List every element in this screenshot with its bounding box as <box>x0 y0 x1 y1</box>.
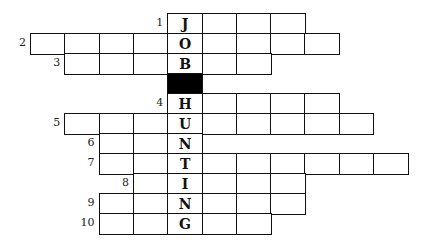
answer-cell[interactable] <box>236 33 272 55</box>
clue-number: 7 <box>75 156 95 169</box>
answer-cell[interactable] <box>64 113 100 135</box>
answer-cell[interactable] <box>99 153 135 175</box>
answer-cell[interactable] <box>133 213 169 235</box>
answer-cell[interactable] <box>236 193 272 215</box>
answer-cell[interactable] <box>133 133 169 155</box>
key-letter-cell[interactable]: J <box>167 13 203 35</box>
answer-cell[interactable] <box>270 153 306 175</box>
answer-cell[interactable] <box>133 33 169 55</box>
key-letter-cell[interactable]: U <box>167 113 203 135</box>
answer-cell[interactable] <box>236 213 272 235</box>
key-letter-cell[interactable]: I <box>167 173 203 195</box>
clue-number: 3 <box>40 56 60 69</box>
answer-cell[interactable] <box>304 33 340 55</box>
answer-cell[interactable] <box>236 13 272 35</box>
answer-cell[interactable] <box>202 113 238 135</box>
answer-cell[interactable] <box>270 13 306 35</box>
answer-cell[interactable] <box>30 33 66 55</box>
answer-cell[interactable] <box>202 53 238 75</box>
answer-cell[interactable] <box>304 153 340 175</box>
answer-cell[interactable] <box>236 173 272 195</box>
answer-cell[interactable] <box>270 93 306 115</box>
key-letter-cell[interactable]: G <box>167 213 203 235</box>
answer-cell[interactable] <box>133 153 169 175</box>
answer-cell[interactable] <box>202 213 238 235</box>
answer-cell[interactable] <box>236 113 272 135</box>
key-letter-cell[interactable]: T <box>167 153 203 175</box>
clue-number: 1 <box>143 16 163 29</box>
answer-cell[interactable] <box>236 153 272 175</box>
answer-cell[interactable] <box>202 33 238 55</box>
answer-cell[interactable] <box>202 13 238 35</box>
answer-cell[interactable] <box>99 113 135 135</box>
answer-cell[interactable] <box>236 93 272 115</box>
answer-cell[interactable] <box>270 33 306 55</box>
answer-cell[interactable] <box>339 153 375 175</box>
answer-cell[interactable] <box>99 193 135 215</box>
clue-number: 9 <box>75 196 95 209</box>
key-letter-cell[interactable]: H <box>167 93 203 115</box>
answer-cell[interactable] <box>270 113 306 135</box>
answer-cell[interactable] <box>304 93 340 115</box>
answer-cell[interactable] <box>202 153 238 175</box>
key-letter-cell[interactable]: B <box>167 53 203 75</box>
answer-cell[interactable] <box>373 153 409 175</box>
clue-number: 8 <box>109 176 129 189</box>
answer-cell[interactable] <box>270 193 306 215</box>
answer-cell[interactable] <box>99 213 135 235</box>
key-letter-cell[interactable]: O <box>167 33 203 55</box>
answer-cell[interactable] <box>64 53 100 75</box>
answer-cell[interactable] <box>133 53 169 75</box>
key-letter-cell[interactable]: N <box>167 133 203 155</box>
answer-cell[interactable] <box>202 193 238 215</box>
answer-cell[interactable] <box>339 113 375 135</box>
answer-cell[interactable] <box>202 173 238 195</box>
answer-cell[interactable] <box>133 173 169 195</box>
answer-cell[interactable] <box>270 173 306 195</box>
clue-number: 4 <box>143 96 163 109</box>
clue-number: 10 <box>75 216 95 229</box>
answer-cell[interactable] <box>99 53 135 75</box>
clue-number: 2 <box>6 36 26 49</box>
answer-cell[interactable] <box>133 193 169 215</box>
answer-cell[interactable] <box>133 113 169 135</box>
answer-cell[interactable] <box>99 133 135 155</box>
clue-number: 6 <box>75 136 95 149</box>
answer-cell[interactable] <box>304 113 340 135</box>
answer-cell[interactable] <box>99 33 135 55</box>
key-letter-cell[interactable]: N <box>167 193 203 215</box>
answer-cell[interactable] <box>202 93 238 115</box>
answer-cell[interactable] <box>64 33 100 55</box>
black-cell <box>167 73 203 95</box>
crossword-grid: 1J2O3B4H5U6N7T8I9N10G <box>0 0 430 243</box>
answer-cell[interactable] <box>236 53 272 75</box>
clue-number: 5 <box>40 116 60 129</box>
